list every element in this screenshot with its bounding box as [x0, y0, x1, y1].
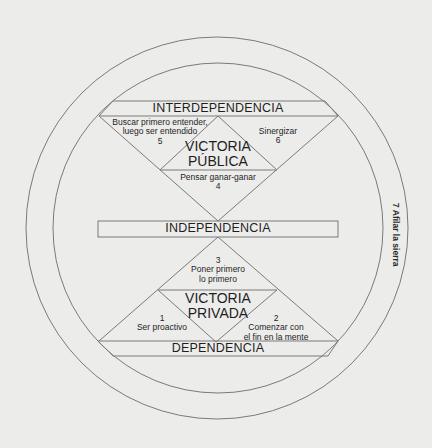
dependencia-band-right: [328, 341, 338, 356]
afilar-la-sierra-label: 7 Afilar la sierra: [391, 203, 401, 266]
interdependencia-band-right: [325, 101, 338, 116]
victoria-privada-line-1: VICTORIA: [178, 291, 258, 306]
victoria-publica-line-2: PÚBLICA: [178, 154, 258, 169]
habit-4: Pensar ganar-ganar 4: [168, 173, 268, 192]
independencia-label: INDEPENDENCIA: [118, 222, 318, 236]
dependencia-band-left: [98, 341, 113, 356]
habit-1: 1 Ser proactivo: [127, 314, 197, 333]
habit-3: 3 Poner primero lo primero: [178, 256, 258, 284]
habit-1-line-1: Ser proactivo: [127, 323, 197, 332]
victoria-publica-label: VICTORIA PÚBLICA: [178, 139, 258, 168]
victoria-publica-line-1: VICTORIA: [178, 139, 258, 154]
interdependencia-band-left: [99, 101, 113, 116]
habit-2: 2 Comenzar con el fin en la mente: [236, 314, 316, 342]
dependencia-label: DEPENDENCIA: [118, 342, 318, 356]
habit-4-number: 4: [168, 182, 268, 191]
habit-3-line-2: lo primero: [178, 275, 258, 284]
interdependencia-label: INTERDEPENDENCIA: [118, 102, 318, 116]
